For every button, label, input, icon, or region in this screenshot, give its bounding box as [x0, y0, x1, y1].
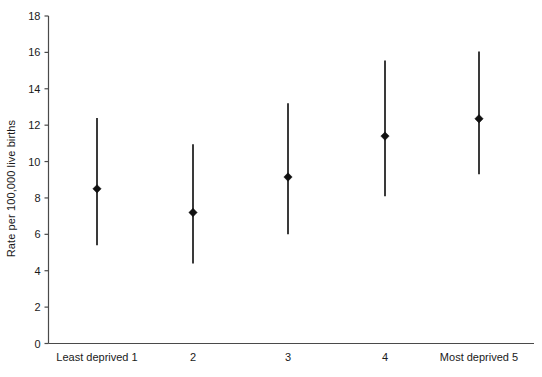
chart-container: Rate per 100,000 live births 02468101214…	[0, 0, 542, 377]
y-tick-label: 18	[28, 10, 40, 22]
x-axis-category-label: 3	[285, 351, 291, 363]
y-tick-label: 12	[28, 119, 40, 131]
data-point-marker	[381, 132, 389, 140]
x-axis-labels: Least deprived 1234Most deprived 5	[56, 351, 518, 363]
x-axis-category-label: 2	[190, 351, 196, 363]
y-tick-label: 14	[28, 83, 40, 95]
y-axis-ticks: 024681012141618	[28, 10, 48, 350]
y-tick-label: 4	[34, 265, 40, 277]
y-tick-label: 6	[34, 228, 40, 240]
y-tick-label: 8	[34, 192, 40, 204]
data-point-marker	[475, 115, 483, 123]
plot-area: 024681012141618 Least deprived 1234Most …	[0, 0, 542, 377]
data-point-marker	[93, 185, 101, 193]
x-axis-category-label: Least deprived 1	[56, 351, 137, 363]
x-axis-category-label: Most deprived 5	[440, 351, 518, 363]
y-tick-label: 10	[28, 156, 40, 168]
errorbar-series	[93, 51, 483, 263]
x-axis-category-label: 4	[382, 351, 388, 363]
data-point-marker	[189, 208, 197, 216]
y-tick-label: 0	[34, 338, 40, 350]
y-tick-label: 16	[28, 46, 40, 58]
data-point-marker	[284, 173, 292, 181]
y-tick-label: 2	[34, 301, 40, 313]
